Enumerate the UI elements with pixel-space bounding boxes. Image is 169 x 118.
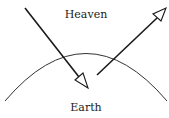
ascending-arrow-shaft — [97, 18, 157, 75]
earth-label: Earth — [70, 102, 101, 113]
heaven-label: Heaven — [65, 9, 107, 20]
earth-horizon-arc — [5, 54, 167, 102]
